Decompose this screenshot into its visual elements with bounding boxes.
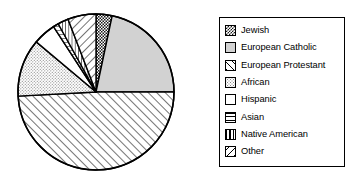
- legend-item-hispanic: Hispanic: [225, 91, 340, 108]
- vertical-lines-swatch-icon: [225, 129, 236, 140]
- legend-label: Asian: [241, 112, 264, 123]
- solid-light-gray-swatch-icon: [225, 42, 236, 53]
- legend-label: Other: [241, 146, 264, 157]
- pie-chart-svg: [14, 10, 178, 174]
- legend-item-native-american: Native American: [225, 126, 340, 143]
- legend-item-other: Other: [225, 143, 340, 160]
- chart-legend: Jewish European Catholic European Protes…: [219, 17, 345, 167]
- legend-item-asian: Asian: [225, 108, 340, 125]
- fine-stipple-swatch-icon: [225, 77, 236, 88]
- legend-label: African: [241, 77, 270, 88]
- diagonal-up-right-swatch-icon: [225, 60, 236, 71]
- legend-item-african: African: [225, 74, 340, 91]
- dense-checker-dark-swatch-icon: [225, 25, 236, 36]
- legend-item-jewish: Jewish: [225, 22, 340, 39]
- pie-chart: [14, 10, 178, 174]
- horizontal-lines-swatch-icon: [225, 112, 236, 123]
- legend-label: Native American: [241, 129, 308, 140]
- blank-white-swatch-icon: [225, 94, 236, 105]
- pie-chart-figure: Jewish European Catholic European Protes…: [0, 0, 352, 184]
- diagonal-down-right-swatch-icon: [225, 146, 236, 157]
- legend-label: European Catholic: [241, 42, 317, 53]
- legend-item-european-protestant: European Protestant: [225, 57, 340, 74]
- pie-slice: [18, 92, 174, 170]
- legend-item-european-catholic: European Catholic: [225, 39, 340, 56]
- legend-label: Hispanic: [241, 94, 276, 105]
- legend-label: European Protestant: [241, 60, 325, 71]
- legend-label: Jewish: [241, 25, 269, 36]
